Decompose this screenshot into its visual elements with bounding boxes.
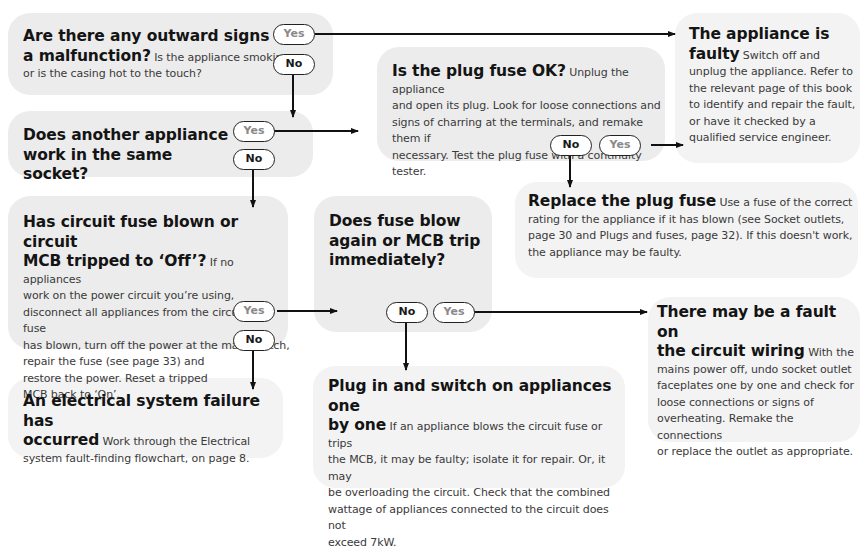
node-appliances-one-by-one-text: Plug in and switch on appliances one by … xyxy=(328,377,628,550)
fuse-blow-again-no-button[interactable]: No xyxy=(386,302,428,323)
another-appliance-no-button[interactable]: No xyxy=(233,149,275,170)
node-title: occurred xyxy=(23,431,99,449)
node-body: wattage of appliances connected to the c… xyxy=(328,503,609,533)
node-title: Is the plug fuse OK? xyxy=(392,62,566,80)
node-title: An electrical system failure has xyxy=(23,392,260,430)
node-body: overheating. Remake the connections xyxy=(657,412,794,442)
node-replace-plug-fuse-text: Replace the plug fuse Use a fuse of the … xyxy=(528,192,858,261)
node-body: page 30 and Plugs and fuses, page 32). I… xyxy=(528,229,852,242)
node-title: Replace the plug fuse xyxy=(528,192,716,210)
node-title: again or MCB trip xyxy=(329,232,480,250)
node-body: the relevant page of this book xyxy=(689,82,852,95)
node-title: work in the same socket? xyxy=(23,146,172,184)
node-outward-signs-text: Are there any outward signs of a malfunc… xyxy=(23,27,293,83)
node-title: Does fuse blow xyxy=(329,212,461,230)
another-appliance-yes-button[interactable]: Yes xyxy=(233,121,275,142)
node-title: faulty xyxy=(689,45,739,63)
node-title: Has circuit fuse blown or circuit xyxy=(23,213,238,251)
circuit-fuse-blown-no-button[interactable]: No xyxy=(233,330,275,351)
outward-signs-no-button[interactable]: No xyxy=(273,54,315,75)
node-body: and open its plug. Look for loose connec… xyxy=(392,99,661,112)
plug-fuse-ok-no-button[interactable]: No xyxy=(550,135,592,156)
node-appliance-faulty-text: The appliance is faulty Switch off and u… xyxy=(689,25,859,147)
node-body: Switch off and xyxy=(739,49,820,62)
node-title: immediately? xyxy=(329,251,445,269)
node-title: Does another appliance xyxy=(23,126,228,144)
node-fuse-blow-again-text: Does fuse blow again or MCB trip immedia… xyxy=(329,212,489,271)
circuit-fuse-blown-yes-button[interactable]: Yes xyxy=(233,301,275,322)
node-body: the appliance may be faulty. xyxy=(528,246,682,259)
node-body: With the xyxy=(805,346,854,359)
node-body: Use a fuse of the correct xyxy=(716,196,852,209)
node-title: Plug in and switch on appliances one xyxy=(328,377,611,415)
node-body: faceplates one by one and check for xyxy=(657,379,854,392)
node-title: the circuit wiring xyxy=(657,342,805,360)
fuse-blow-again-yes-button[interactable]: Yes xyxy=(433,302,475,323)
node-body: loose connections or signs of xyxy=(657,396,814,409)
node-system-failure-text: An electrical system failure has occurre… xyxy=(23,392,283,467)
node-title: by one xyxy=(328,416,386,434)
node-body: the MCB, it may be faulty; isolate it fo… xyxy=(328,453,605,483)
node-title: MCB tripped to ‘Off’? xyxy=(23,252,206,270)
node-plug-fuse-ok-text: Is the plug fuse OK? Unplug the applianc… xyxy=(392,62,662,181)
node-body: unplug the appliance. Refer to xyxy=(689,65,853,78)
node-title: Are there any outward signs of xyxy=(23,27,292,45)
node-body: or have it checked by a xyxy=(689,115,816,128)
node-body: or replace the outlet as appropriate. xyxy=(657,445,853,458)
node-body: work on the power circuit you’re using, xyxy=(23,289,234,302)
plug-fuse-ok-yes-button[interactable]: Yes xyxy=(599,135,641,156)
node-body: mains power off, undo socket outlet xyxy=(657,363,852,376)
node-body: to identify and repair the fault, xyxy=(689,98,855,111)
node-body: system fault-finding flowchart, on page … xyxy=(23,452,249,465)
node-circuit-wiring-text: There may be a fault on the circuit wiri… xyxy=(657,303,862,461)
node-title: a malfunction? xyxy=(23,47,151,65)
node-title: There may be a fault on xyxy=(657,303,836,341)
node-body: repair the fuse (see page 33) and xyxy=(23,355,204,368)
node-body: be overloading the circuit. Check that t… xyxy=(328,486,610,499)
node-body: Is the appliance smoking xyxy=(151,51,289,64)
node-body: qualified service engineer. xyxy=(689,131,831,144)
node-body: restore the power. Reset a tripped xyxy=(23,372,208,385)
node-title: The appliance is xyxy=(689,25,829,43)
outward-signs-yes-button[interactable]: Yes xyxy=(273,24,315,45)
node-another-appliance-text: Does another appliance work in the same … xyxy=(23,126,233,185)
node-body: rating for the appliance if it has blown… xyxy=(528,213,844,226)
node-body: exceed 7kW. xyxy=(328,536,396,549)
node-body: Work through the Electrical xyxy=(99,435,250,448)
node-body: or is the casing hot to the touch? xyxy=(23,67,202,80)
